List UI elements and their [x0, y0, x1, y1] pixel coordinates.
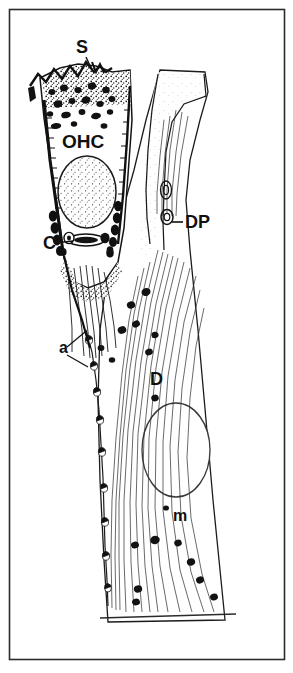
- label-deiters-cell: D: [150, 369, 163, 389]
- label-cuticular-region: C: [43, 233, 56, 253]
- anatomy-illustration: S OHC C DP a D m: [0, 0, 293, 673]
- deiters-nucleus: [142, 403, 210, 497]
- ohc-nucleus: [58, 156, 116, 228]
- label-outer-hair-cell: OHC: [62, 131, 105, 152]
- label-deiters-phalangeal-process: DP: [185, 212, 210, 232]
- label-afferent-endings: a: [59, 339, 68, 356]
- figure-container: S OHC C DP a D m: [0, 0, 293, 673]
- label-mitochondria: m: [173, 507, 187, 524]
- label-stereocilia: S: [76, 37, 88, 57]
